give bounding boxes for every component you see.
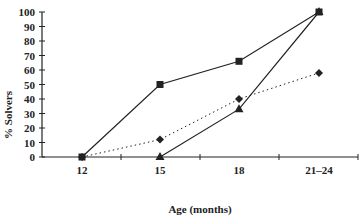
y-tick-label: 80 bbox=[24, 35, 36, 47]
y-tick-label: 70 bbox=[24, 50, 36, 62]
y-tick-label: 20 bbox=[24, 122, 36, 134]
x-tick-label: 21–24 bbox=[305, 164, 333, 176]
x-axis: 12151821–24 bbox=[42, 154, 358, 176]
square-marker bbox=[157, 81, 164, 88]
diamond-series bbox=[78, 69, 323, 161]
x-axis-title: Age (months) bbox=[168, 203, 232, 216]
x-tick-label: 18 bbox=[234, 164, 246, 176]
diamond-marker bbox=[235, 95, 243, 103]
y-tick-label: 50 bbox=[24, 79, 36, 91]
series-layer bbox=[78, 7, 324, 161]
square-series bbox=[79, 9, 323, 161]
y-axis-title: % Solvers bbox=[2, 90, 14, 139]
triangle-series bbox=[156, 7, 324, 160]
y-tick-label: 0 bbox=[30, 151, 36, 163]
square-marker bbox=[236, 58, 243, 65]
y-tick-label: 90 bbox=[24, 21, 36, 33]
line-chart: 0102030405060708090100 12151821–24 Age (… bbox=[0, 0, 362, 224]
y-tick-label: 40 bbox=[24, 93, 36, 105]
y-tick-label: 30 bbox=[24, 108, 36, 120]
x-tick-label: 12 bbox=[77, 164, 89, 176]
y-axis: 0102030405060708090100 bbox=[19, 6, 46, 163]
triangle-marker bbox=[156, 152, 165, 160]
diamond-marker bbox=[315, 69, 323, 77]
y-tick-label: 100 bbox=[19, 6, 36, 18]
diamond-marker bbox=[156, 136, 164, 144]
y-tick-label: 10 bbox=[24, 137, 36, 149]
x-tick-label: 15 bbox=[155, 164, 167, 176]
y-tick-label: 60 bbox=[24, 64, 36, 76]
